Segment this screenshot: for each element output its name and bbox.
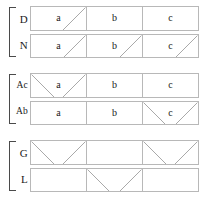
row-label-d: D — [0, 6, 30, 32]
cell-label: a — [56, 80, 60, 90]
cell-1-0-1: b — [86, 74, 142, 97]
group-rows-column — [30, 140, 199, 192]
table-row: abc — [30, 73, 199, 98]
cell-1-0-2: c — [142, 74, 198, 97]
table-row: abc — [30, 101, 199, 126]
cell-label: c — [168, 80, 172, 90]
cell-0-1-1: b — [86, 35, 142, 58]
cell-label: a — [56, 108, 60, 118]
diagram-canvas: DNabcabcAcAbabcabcGL — [0, 0, 199, 203]
group-label-column: DN — [0, 6, 30, 58]
cell-label: b — [112, 13, 117, 23]
cell-mark-cross — [143, 141, 198, 164]
cell-0-0-0: a — [31, 7, 86, 30]
cell-label: c — [168, 41, 172, 51]
cell-label: b — [112, 80, 117, 90]
cell-0-0-1: b — [86, 7, 142, 30]
cell-2-0-2 — [142, 141, 198, 164]
cell-0-1-2: c — [142, 35, 198, 58]
cell-2-1-2 — [142, 169, 198, 192]
cell-1-1-0: a — [31, 102, 86, 125]
cell-0-0-2: c — [142, 7, 198, 30]
cell-1-0-0: a — [31, 74, 86, 97]
cell-mark-cross — [87, 169, 142, 192]
group-rows-column: abcabc — [30, 6, 199, 58]
cell-2-0-0 — [31, 141, 86, 164]
table-row: abc — [30, 6, 199, 31]
row-label-ac: Ac — [0, 73, 30, 99]
cell-1-1-1: b — [86, 102, 142, 125]
row-label-g: G — [0, 140, 30, 166]
group-rows-column: abcabc — [30, 73, 199, 125]
row-label-l: L — [0, 166, 30, 192]
cell-0-1-0: a — [31, 35, 86, 58]
group-label-column: GL — [0, 140, 30, 192]
cell-label: c — [168, 13, 172, 23]
cell-label: a — [56, 13, 60, 23]
cell-label: b — [112, 108, 117, 118]
row-group-1: AcAbabcabc — [0, 73, 199, 125]
table-row — [30, 168, 199, 193]
cell-2-1-1 — [86, 169, 142, 192]
cell-label: a — [56, 41, 60, 51]
row-group-0: DNabcabc — [0, 6, 199, 58]
cell-label: c — [168, 108, 172, 118]
cell-mark-cross — [31, 141, 86, 164]
row-label-ab: Ab — [0, 99, 30, 125]
cell-2-1-0 — [31, 169, 86, 192]
cell-2-0-1 — [86, 141, 142, 164]
row-group-2: GL — [0, 140, 199, 192]
cell-1-1-2: c — [142, 102, 198, 125]
table-row — [30, 140, 199, 165]
row-label-n: N — [0, 32, 30, 58]
cell-label: b — [112, 41, 117, 51]
group-label-column: AcAb — [0, 73, 30, 125]
table-row: abc — [30, 34, 199, 59]
